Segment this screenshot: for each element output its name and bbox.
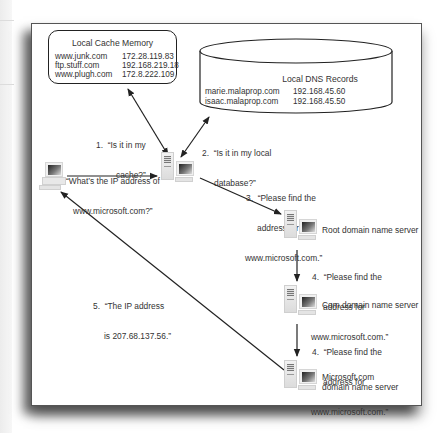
com-server-label: Com domain name server — [322, 300, 418, 310]
gutter-divider — [0, 20, 14, 21]
client-query-line: “What’s the IP address of — [66, 176, 160, 186]
local-cache-title: Local Cache Memory — [49, 38, 176, 48]
step-2-line: 2. “Is it in my local — [202, 148, 271, 158]
cache-host: www.plugh.com — [55, 70, 112, 80]
step-5-label: 5. “The IP address is 207.68.137.56.” — [93, 281, 171, 351]
local-dns-title: Local DNS Records — [248, 74, 392, 84]
dns-ip: 192.168.45.60 — [293, 87, 345, 97]
root-server-computer-icon — [284, 210, 324, 244]
step-1-line: 1. “Is it in my — [96, 140, 146, 150]
microsoft-server-computer-icon — [284, 360, 324, 394]
gutter-divider — [0, 84, 14, 85]
step-4b-line: 4. “Please find the — [312, 347, 388, 357]
local-server-computer-icon — [161, 152, 201, 186]
local-cache-box: Local Cache Memory www.junk.com 172.28.1… — [48, 30, 177, 84]
dns-ip: 192.168.45.50 — [293, 97, 345, 107]
step-5-line: is 207.68.137.56.” — [93, 331, 171, 341]
step-3-line: www.microsoft.com.” — [245, 253, 322, 263]
microsoft-server-label: Microsoft.com domain name server — [322, 372, 398, 392]
com-server-computer-icon — [284, 285, 324, 319]
step-3-line: 3. “Please find the — [246, 193, 322, 203]
dns-host: marie.malaprop.com — [205, 87, 280, 97]
client-query-label: “What’s the IP address of www.microsoft.… — [66, 156, 160, 226]
microsoft-server-label-line: domain name server — [322, 382, 398, 392]
step-4a-line: 4. “Please find the — [312, 272, 388, 282]
page-gutter — [0, 0, 12, 433]
dns-host: isaac.malaprop.com — [205, 97, 278, 107]
root-server-label: Root domain name server — [322, 225, 418, 235]
client-query-line: www.microsoft.com?” — [66, 206, 160, 216]
step-4b-line: www.microsoft.com.” — [311, 407, 388, 417]
cache-ip: 172.8.222.109 — [122, 70, 174, 80]
microsoft-server-label-line: Microsoft.com — [322, 372, 398, 382]
step-5-line: 5. “The IP address — [93, 301, 171, 311]
desktop-computer-icon — [38, 162, 68, 192]
